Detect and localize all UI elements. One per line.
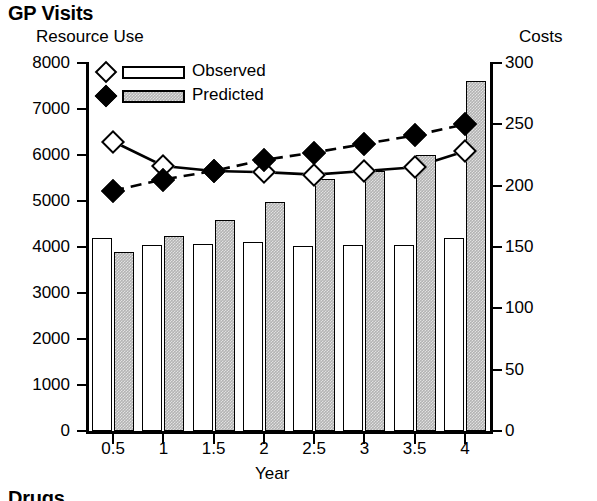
- legend-label-predicted: Predicted: [192, 85, 264, 105]
- bar-predicted-4: [466, 81, 486, 431]
- legend-item-predicted: Predicted: [98, 84, 283, 108]
- bar-observed-0.5: [92, 238, 112, 431]
- bar-predicted-1: [164, 236, 184, 431]
- bar-observed-2: [243, 242, 263, 431]
- white-bar-icon: [122, 66, 185, 79]
- filled-diamond-icon: [95, 85, 118, 108]
- bar-predicted-2.5: [315, 179, 335, 431]
- bar-predicted-2: [265, 202, 285, 431]
- gp-visits-chart-panel: GP Visits Resource Use Costs Year Drugs …: [0, 0, 597, 501]
- legend-item-observed: Observed: [98, 60, 283, 84]
- bar-observed-3: [343, 245, 363, 431]
- legend-label-observed: Observed: [192, 61, 266, 81]
- bar-observed-1.5: [193, 244, 213, 431]
- bar-observed-3.5: [394, 245, 414, 431]
- gray-bar-icon: [122, 90, 185, 103]
- bar-predicted-3.5: [416, 155, 436, 431]
- bar-observed-1: [142, 245, 162, 431]
- bar-observed-4: [444, 238, 464, 431]
- open-diamond-icon: [95, 61, 118, 84]
- bar-observed-2.5: [293, 246, 313, 431]
- legend: Observed Predicted: [98, 60, 283, 108]
- bar-predicted-0.5: [114, 252, 134, 431]
- bar-predicted-3: [365, 171, 385, 431]
- bar-predicted-1.5: [215, 220, 235, 431]
